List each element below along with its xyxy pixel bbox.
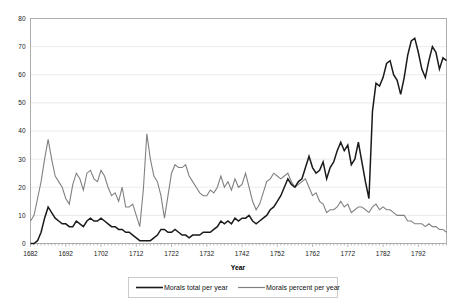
chart-container: 01020304050607080 1682169217021712172217… (0, 0, 465, 306)
line-chart: 01020304050607080 1682169217021712172217… (0, 0, 465, 306)
y-tick-label: 80 (18, 15, 26, 22)
x-tick-label: 1692 (59, 250, 74, 257)
data-series-group (31, 38, 447, 243)
x-tick-label: 1782 (376, 250, 391, 257)
y-tick-label: 30 (18, 156, 26, 163)
chart-legend: Morals total per year Morals percent per… (129, 278, 341, 298)
y-tick-label: 40 (18, 127, 26, 134)
x-tick-label: 1772 (341, 250, 356, 257)
y-tick-label: 60 (18, 71, 26, 78)
x-axis-tick-labels: 1682169217021712172217321742175217621772… (23, 250, 426, 257)
series-line-morals-percent-per-year (31, 134, 447, 232)
x-axis-tick-marks (31, 244, 447, 248)
y-tick-label: 0 (22, 240, 26, 247)
y-axis-tick-labels: 01020304050607080 (18, 15, 26, 247)
series-line-morals-total-per-year (31, 38, 447, 243)
x-tick-label: 1742 (235, 250, 250, 257)
x-axis-title: Year (231, 264, 246, 271)
x-tick-label: 1762 (305, 250, 320, 257)
x-tick-label: 1682 (23, 250, 38, 257)
y-tick-label: 70 (18, 43, 26, 50)
y-tick-label: 50 (18, 99, 26, 106)
y-tick-label: 10 (18, 212, 26, 219)
legend-label-morals-total: Morals total per year (164, 284, 228, 292)
legend-label-morals-percent: Morals percent per year (266, 284, 341, 292)
x-tick-label: 1732 (200, 250, 215, 257)
x-tick-label: 1752 (270, 250, 285, 257)
x-tick-label: 1702 (94, 250, 109, 257)
x-tick-label: 1722 (164, 250, 179, 257)
x-tick-label: 1792 (411, 250, 426, 257)
y-tick-label: 20 (18, 184, 26, 191)
x-tick-label: 1712 (129, 250, 144, 257)
